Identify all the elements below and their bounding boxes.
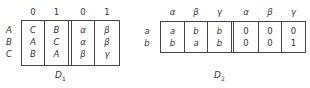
d2-row-label: b xyxy=(141,37,153,49)
d1-row-label: C xyxy=(3,48,15,60)
d2-cell: b xyxy=(161,37,184,49)
d2-cell: 0 xyxy=(234,25,258,37)
d1-cell: β xyxy=(95,36,119,48)
d2-cell: a xyxy=(161,25,184,37)
d2-cell: 0 xyxy=(282,25,305,37)
d2-cell: 0 xyxy=(259,37,281,49)
d2-col-header: α xyxy=(161,6,184,18)
d1-cell: β xyxy=(72,48,94,60)
d1-col-header: 0 xyxy=(72,6,94,18)
d1-cell: B xyxy=(45,24,68,36)
d2-cell: b xyxy=(208,25,231,37)
d1-cell: C xyxy=(22,24,44,36)
d1-cell: B xyxy=(22,48,44,60)
d1-col-header: 0 xyxy=(22,6,44,18)
d1-col-header: 1 xyxy=(45,6,68,18)
d2-cell: 1 xyxy=(282,37,305,49)
d2-cell: 0 xyxy=(259,25,281,37)
d2-right-border xyxy=(305,21,306,53)
d2-col-header: β xyxy=(259,6,281,18)
d1-caption: D1 xyxy=(55,70,66,82)
d2-col-header: γ xyxy=(208,6,231,18)
d1-cell: A xyxy=(22,36,44,48)
d2-row-label: a xyxy=(141,25,153,37)
d1-cell: γ xyxy=(95,48,119,60)
d2-cell: b xyxy=(185,25,207,37)
d2-cell: 0 xyxy=(234,37,258,49)
d2-caption: D2 xyxy=(214,70,225,82)
d1-cell: A xyxy=(45,48,68,60)
d2-cell: b xyxy=(208,37,231,49)
d1-col-header: 1 xyxy=(95,6,119,18)
d1-cell: α xyxy=(72,36,94,48)
d1-cell: C xyxy=(45,36,68,48)
d1-right-border xyxy=(119,20,120,66)
d2-double-divider-a xyxy=(231,21,232,53)
d1-row-label: B xyxy=(3,36,15,48)
d2-col-header: γ xyxy=(282,6,305,18)
d2-cell: a xyxy=(185,37,207,49)
d1-cell: β xyxy=(95,24,119,36)
d1-double-divider-a xyxy=(68,20,69,66)
d2-col-header: β xyxy=(185,6,207,18)
d1-row-label: A xyxy=(3,24,15,36)
d1-cell: α xyxy=(72,24,94,36)
d2-col-header: α xyxy=(234,6,258,18)
